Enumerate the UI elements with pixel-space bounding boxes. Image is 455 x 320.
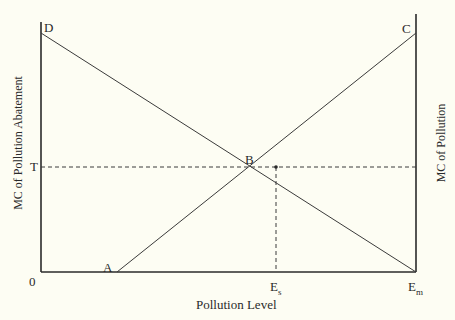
t-tick-label: T	[30, 160, 38, 173]
equilibrium-point	[274, 165, 278, 169]
point-a-label: A	[103, 261, 112, 274]
origin-label: 0	[29, 275, 36, 288]
left-y-axis-label: MC of Pollution Abatement	[12, 63, 24, 223]
diagram-canvas: D C B A T 0 Es Em Pollution Level MC of …	[0, 0, 455, 320]
point-c-label: C	[402, 22, 411, 35]
abatement-cost-curve	[41, 33, 416, 272]
point-d-label: D	[44, 21, 53, 34]
right-y-axis-label: MC of Pollution	[435, 88, 447, 198]
x-axis-label: Pollution Level	[196, 298, 277, 311]
es-tick-label: Es	[270, 280, 281, 293]
pollution-cost-curve	[117, 33, 416, 272]
point-b-label: B	[245, 153, 254, 166]
diagram-svg	[0, 0, 455, 320]
em-tick-label: Em	[408, 280, 423, 293]
